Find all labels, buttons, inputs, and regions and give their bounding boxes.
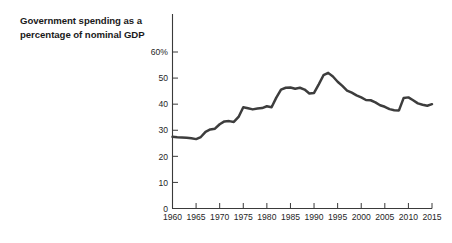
x-axis-tick-labels: 1960196519701975198019851990199520002005… [163,212,442,222]
spending-share-line [173,73,433,139]
x-tick-label: 1960 [163,212,182,222]
x-tick-label: 2005 [375,212,394,222]
y-tick-label: 40 [158,99,168,109]
x-tick-label: 1985 [281,212,300,222]
x-axis: 1960196519701975198019851990199520002005… [163,203,442,222]
x-tick-label: 2010 [399,212,418,222]
y-tick-label: 50 [158,73,168,83]
line-chart-plot: 0102030405060% 1960196519701975198019851… [0,0,452,243]
x-tick-label: 1980 [257,212,276,222]
y-tick-label: 60% [151,47,169,57]
y-tick-label: 10 [158,178,168,188]
y-axis-tick-labels: 0102030405060% [151,47,169,214]
y-axis-tick-marks [173,52,179,209]
x-tick-label: 1995 [328,212,347,222]
x-tick-label: 1965 [187,212,206,222]
x-tick-label: 2000 [352,212,371,222]
y-axis: 0102030405060% [151,14,178,214]
x-axis-tick-marks [196,203,432,209]
x-tick-label: 1970 [210,212,229,222]
chart-figure: Government spending as a percentage of n… [0,0,452,243]
y-tick-label: 30 [158,125,168,135]
y-tick-label: 20 [158,152,168,162]
x-tick-label: 2015 [422,212,441,222]
x-tick-label: 1975 [234,212,253,222]
x-tick-label: 1990 [304,212,323,222]
